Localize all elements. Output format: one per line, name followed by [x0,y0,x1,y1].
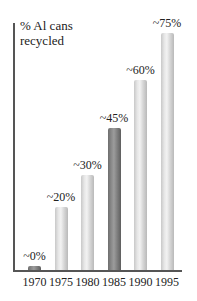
y-axis [13,23,15,271]
y-axis-title: % Al cans recycled [20,18,73,48]
bar-1990 [134,80,147,270]
bar-1970 [28,266,41,270]
bar-1975 [55,207,68,270]
value-label-1990: ~60% [121,63,161,78]
value-label-1975: ~20% [41,190,81,205]
bar-1995 [161,33,174,270]
value-label-1985: ~45% [94,111,134,126]
x-tick-1995: 1995 [150,275,184,290]
x-axis [13,270,182,272]
value-label-1995: ~75% [147,16,187,31]
bar-1985 [108,128,121,270]
value-label-1980: ~30% [68,158,108,173]
bar-1980 [81,175,94,270]
y-axis-title-line1: % Al cans [20,18,73,33]
y-axis-title-line2: recycled [20,33,73,48]
value-label-1970: ~0% [15,249,55,264]
